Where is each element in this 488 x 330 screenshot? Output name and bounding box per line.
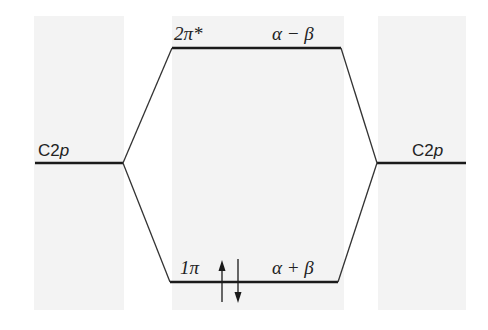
- antibonding-name-label: 2π*: [174, 24, 203, 43]
- right-c2p-orbital: p: [434, 141, 443, 160]
- bonding-name-label: 1π: [180, 258, 199, 277]
- antibonding-energy-label: α − β: [272, 24, 314, 43]
- left-to-bonding-line: [123, 163, 170, 282]
- right-to-antibonding-line: [341, 48, 377, 163]
- left-c2p-orbital: p: [60, 141, 69, 160]
- orbital-lines: [0, 0, 488, 330]
- left-c2p-prefix: C2: [38, 141, 60, 160]
- bonding-energy-label: α + β: [272, 258, 314, 277]
- right-c2p-label: C2p: [412, 142, 443, 159]
- left-c2p-label: C2p: [38, 142, 69, 159]
- right-c2p-prefix: C2: [412, 141, 434, 160]
- left-to-antibonding-line: [123, 48, 172, 163]
- right-to-bonding-line: [338, 163, 377, 282]
